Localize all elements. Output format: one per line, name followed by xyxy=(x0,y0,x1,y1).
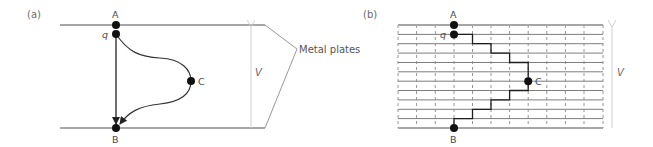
point-b-dot xyxy=(112,124,120,132)
equipotential-lines xyxy=(398,34,603,118)
metal-plates-label: Metal plates xyxy=(299,44,360,55)
point-b-dot-b xyxy=(450,124,458,132)
charge-q-label-b: q xyxy=(440,29,446,40)
plates-leader-line xyxy=(265,25,297,128)
point-a-dot-b xyxy=(450,21,458,29)
point-c-dot xyxy=(187,77,195,85)
voltage-label-b: V xyxy=(617,67,625,78)
charge-q-label: q xyxy=(102,29,108,40)
dashed-grid-lines xyxy=(398,25,603,128)
voltage-label-a: V xyxy=(255,67,263,78)
point-a-label: A xyxy=(112,9,119,20)
diagram-canvas: (a) Metal plates V A q C B (b) xyxy=(0,0,653,147)
panel-b: (b) xyxy=(363,9,625,145)
curved-path-upper xyxy=(116,34,191,81)
panel-b-label: (b) xyxy=(363,9,377,20)
point-c-label-b: C xyxy=(535,76,542,87)
point-a-label-b: A xyxy=(450,9,457,20)
point-b-label: B xyxy=(112,134,119,145)
point-b-label-b: B xyxy=(450,134,457,145)
point-c-label: C xyxy=(198,76,205,87)
charge-q-dot xyxy=(112,30,120,38)
curved-path-lower-arrow xyxy=(120,81,191,124)
charge-q-dot-b xyxy=(450,30,458,38)
panel-a-label: (a) xyxy=(27,9,41,20)
panel-a: (a) Metal plates V A q C B xyxy=(27,9,360,145)
point-c-dot-b xyxy=(524,77,532,85)
point-a-dot xyxy=(112,21,120,29)
